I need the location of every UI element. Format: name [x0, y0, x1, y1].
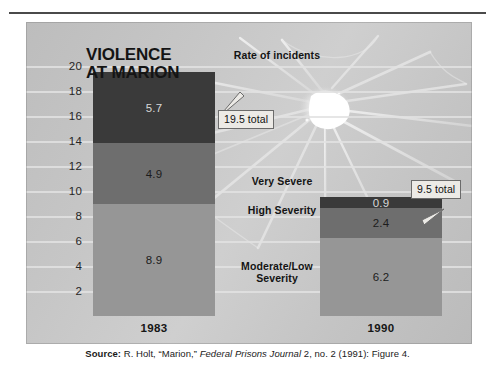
y-tick-label: 8: [26, 210, 82, 222]
segment-value: 4.9: [146, 168, 163, 180]
figure-root: 20 18 16 14 12 10 8 6 4 2 5.7 4.9 8.9: [0, 0, 495, 371]
y-tick-label: 4: [26, 260, 82, 272]
y-tick-label: 6: [26, 235, 82, 247]
legend-label-high-severity: High Severity: [222, 204, 342, 216]
source-prefix: Source:: [85, 348, 121, 359]
segment-value: 2.4: [373, 217, 390, 229]
callout-9-5-total: 9.5 total: [411, 180, 461, 199]
legend-label-moderate-low: Moderate/Low Severity: [212, 260, 342, 285]
legend-label-very-severe: Very Severe: [222, 175, 342, 187]
segment-value: 8.9: [146, 254, 163, 266]
y-tick-label: 10: [26, 185, 82, 197]
segment-1983-high-severity: 4.9: [93, 143, 215, 204]
source-line: Source: R. Holt, “Marion,” Federal Priso…: [0, 348, 495, 359]
segment-value: 0.9: [373, 197, 390, 209]
legend-label-moderate-low-line1: Moderate/Low: [212, 260, 342, 272]
y-tick-label: 12: [26, 160, 82, 172]
x-axis-label-1990: 1990: [320, 322, 442, 334]
chart-title-line-1: VIOLENCE: [86, 46, 179, 64]
rate-of-incidents-label: Rate of incidents: [212, 49, 342, 61]
chart-title: VIOLENCE AT MARION: [86, 46, 179, 82]
top-divider-rule: [9, 12, 486, 14]
chart-title-line-2: AT MARION: [86, 64, 179, 82]
source-text-1: R. Holt, “Marion,”: [121, 348, 200, 359]
y-tick-label: 20: [26, 60, 82, 72]
legend-label-moderate-low-line2: Severity: [212, 272, 342, 284]
segment-1983-moderate-low: 8.9: [93, 204, 215, 316]
y-tick-label: 14: [26, 135, 82, 147]
chart-panel: 20 18 16 14 12 10 8 6 4 2 5.7 4.9 8.9: [26, 22, 472, 344]
source-journal-title: Federal Prisons Journal: [200, 348, 301, 359]
callout-19-5-total: 19.5 total: [218, 110, 274, 129]
segment-value: 5.7: [146, 102, 163, 114]
y-tick-label: 16: [26, 110, 82, 122]
y-tick-label: 2: [26, 285, 82, 297]
x-axis-label-1983: 1983: [93, 322, 215, 334]
segment-value: 6.2: [373, 271, 390, 283]
source-text-2: 2, no. 2 (1991): Figure 4.: [301, 348, 410, 359]
y-tick-label: 18: [26, 85, 82, 97]
